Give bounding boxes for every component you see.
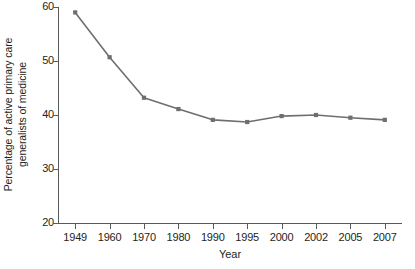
y-tick-mark <box>53 115 58 116</box>
series-line <box>75 12 385 122</box>
y-tick-mark <box>53 169 58 170</box>
data-point-marker <box>176 107 180 111</box>
data-point-marker <box>314 113 318 117</box>
x-tick-mark <box>385 224 386 229</box>
x-axis-title: Year <box>58 248 402 260</box>
data-point-marker <box>108 55 112 59</box>
y-tick-mark <box>53 223 58 224</box>
line-chart-figure: Percentage of active primary care genera… <box>0 0 415 269</box>
data-series-layer <box>0 0 415 269</box>
x-tick-mark <box>247 224 248 229</box>
x-tick-mark <box>350 224 351 229</box>
data-point-marker <box>245 120 249 124</box>
data-point-marker <box>142 96 146 100</box>
y-tick-mark <box>53 7 58 8</box>
x-tick-mark <box>282 224 283 229</box>
x-tick-mark <box>178 224 179 229</box>
x-tick-label: 2007 <box>361 231 409 243</box>
data-point-marker <box>348 116 352 120</box>
x-tick-mark <box>110 224 111 229</box>
x-tick-mark <box>213 224 214 229</box>
y-tick-mark <box>53 61 58 62</box>
data-point-marker <box>211 118 215 122</box>
x-tick-mark <box>144 224 145 229</box>
x-tick-mark <box>75 224 76 229</box>
x-tick-mark <box>316 224 317 229</box>
data-point-marker <box>383 118 387 122</box>
data-point-marker <box>280 114 284 118</box>
data-point-marker <box>73 10 77 14</box>
